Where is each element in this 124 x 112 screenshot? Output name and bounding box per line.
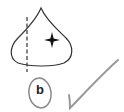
- diagram-label: b: [36, 83, 44, 96]
- diagram-canvas: [0, 0, 124, 112]
- drop-shape: [11, 8, 72, 66]
- star-icon: [44, 32, 60, 48]
- checkmark-icon: [69, 60, 118, 108]
